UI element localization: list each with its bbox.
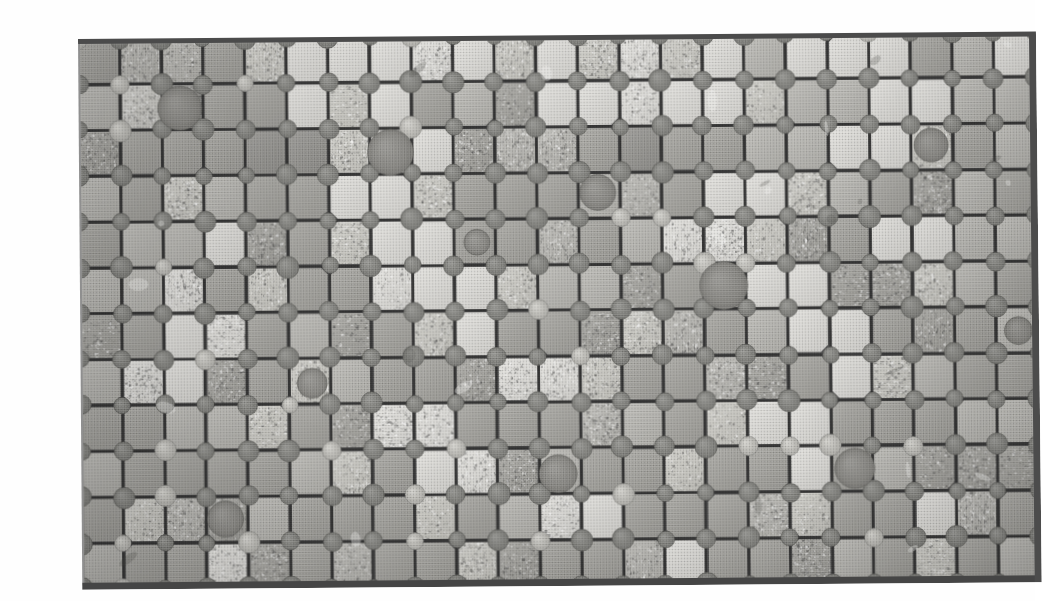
- tiled-surface-photograph: [78, 39, 1036, 589]
- tile-grid-canvas: [78, 31, 1042, 589]
- photo-plate: [78, 31, 1042, 589]
